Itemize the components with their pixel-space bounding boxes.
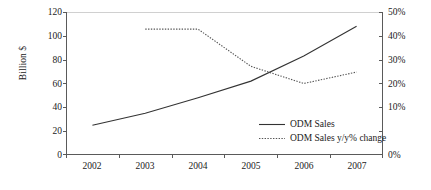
y-axis-left-tick-label: 0 (57, 151, 62, 160)
x-axis-tick-label: 2007 (331, 161, 383, 171)
series-line-odm-sales (92, 26, 356, 125)
x-axis-tick-label: 2002 (66, 161, 118, 171)
x-axis-tick-label: 2005 (225, 161, 277, 171)
y-axis-right-tick-label: 20% (388, 80, 405, 89)
y-axis-left-tick-label: 40 (53, 103, 63, 112)
y-axis-right-tick-label: 40% (388, 32, 405, 41)
legend-label: ODM Sales y/y% change (290, 131, 386, 145)
y-axis-left-tick-label: 120 (48, 8, 62, 17)
y-axis-left-title: Billion $ (18, 23, 28, 103)
legend-swatch-solid-icon (259, 120, 285, 129)
y-axis-left-tick-label: 20 (53, 127, 63, 136)
y-axis-right-tick-label: 50% (388, 8, 405, 17)
x-axis-tick-label: 2003 (119, 161, 171, 171)
y-axis-left-tick-label: 60 (53, 80, 63, 89)
x-axis-tick-label: 2006 (278, 161, 330, 171)
legend-label: ODM Sales (290, 117, 335, 131)
y-axis-left-tick-label: 80 (53, 56, 63, 65)
chart-container: Billion $ 120 100 80 60 40 20 0 50% 40% … (0, 0, 431, 190)
legend-swatch-dotted-icon (259, 134, 285, 143)
legend: ODM Sales ODM Sales y/y% change (259, 117, 386, 145)
legend-item-odm-sales-yoy-change: ODM Sales y/y% change (259, 131, 386, 145)
series-line-odm-sales-yoy-change (145, 29, 356, 83)
legend-item-odm-sales: ODM Sales (259, 117, 386, 131)
y-axis-right-tick-label: 10% (388, 103, 405, 112)
x-axis-tick-label: 2004 (172, 161, 224, 171)
y-axis-right-tick-label: 0% (388, 151, 401, 160)
y-axis-right-tick-label: 30% (388, 56, 405, 65)
y-axis-left-tick-label: 100 (48, 32, 62, 41)
